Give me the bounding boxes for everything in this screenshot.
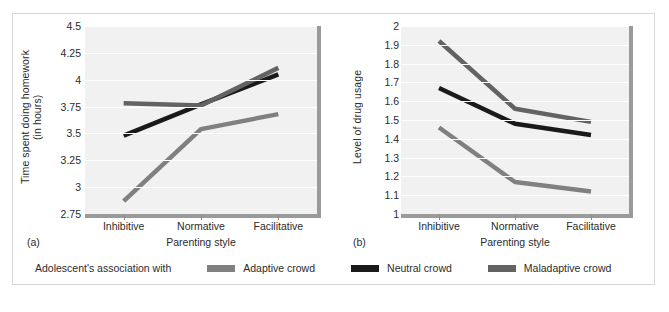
y-tick-label: 3.5 — [66, 127, 81, 139]
y-tick-label: 2.75 — [61, 208, 81, 220]
y-axis-ticks-b: 11.11.21.31.41.51.61.71.81.92 — [365, 14, 399, 214]
legend-item[interactable]: Adaptive crowd — [207, 262, 315, 274]
figure-frame: Time spent doing homework(in hours) 2.75… — [12, 13, 655, 285]
chart-panel-a: Time spent doing homework(in hours) 2.75… — [13, 14, 343, 232]
y-axis-label-b: Level of drug usage — [351, 42, 365, 192]
gridline — [401, 120, 629, 121]
y-tick-label: 1.3 — [384, 152, 399, 164]
x-axis-label-a: Parenting style — [85, 236, 317, 248]
y-tick-label: 1.4 — [384, 133, 399, 145]
gridline — [401, 101, 629, 102]
plot-area-a — [85, 26, 321, 218]
legend-label: Maladaptive crowd — [524, 262, 612, 274]
gridline — [401, 82, 629, 83]
x-axis-ticks-b: InhibitiveNormativeFacilitative — [401, 220, 629, 236]
y-tick-label: 3.75 — [61, 101, 81, 113]
legend-swatch — [488, 265, 516, 272]
gridline — [85, 187, 317, 188]
series-line — [124, 68, 279, 106]
y-tick-label: 1.6 — [384, 95, 399, 107]
legend-title: Adolescent's association with — [35, 262, 171, 274]
legend-label: Adaptive crowd — [243, 262, 315, 274]
gridline — [401, 139, 629, 140]
gridline — [85, 133, 317, 134]
series-lines-a — [85, 26, 317, 214]
gridline — [401, 45, 629, 46]
x-tick-label: Facilitative — [566, 220, 616, 232]
gridline — [85, 26, 317, 27]
gridline — [401, 158, 629, 159]
y-axis-label-a: Time spent doing homework(in hours) — [19, 32, 45, 202]
series-line — [439, 128, 591, 192]
series-line — [439, 88, 591, 135]
x-axis-ticks-a: InhibitiveNormativeFacilitative — [85, 220, 317, 236]
legend-items: Adaptive crowdNeutral crowdMaladaptive c… — [171, 262, 611, 274]
y-axis-ticks-a: 2.7533.253.53.7544.254.5 — [47, 14, 81, 214]
x-tick-label: Inhibitive — [418, 220, 459, 232]
x-tick-label: Normative — [491, 220, 539, 232]
y-tick-label: 4.5 — [66, 20, 81, 32]
y-tick-label: 4 — [75, 74, 81, 86]
legend-swatch — [207, 265, 235, 272]
gridline — [85, 107, 317, 108]
gridline — [85, 80, 317, 81]
gridline — [85, 160, 317, 161]
y-tick-label: 1.9 — [384, 39, 399, 51]
y-tick-label: 3 — [75, 181, 81, 193]
y-tick-label: 1.7 — [384, 76, 399, 88]
gridline — [85, 53, 317, 54]
y-tick-label: 1.2 — [384, 170, 399, 182]
x-tick-label: Normative — [177, 220, 225, 232]
legend-item[interactable]: Neutral crowd — [351, 262, 452, 274]
y-tick-label: 1 — [393, 208, 399, 220]
y-tick-label: 1.8 — [384, 58, 399, 70]
gridline — [401, 195, 629, 196]
y-tick-label: 4.25 — [61, 47, 81, 59]
gridline — [401, 176, 629, 177]
y-tick-label: 1.1 — [384, 189, 399, 201]
x-tick-label: Inhibitive — [103, 220, 144, 232]
legend-swatch — [351, 265, 379, 272]
x-axis-label-b: Parenting style — [401, 236, 629, 248]
y-tick-label: 2 — [393, 20, 399, 32]
legend: Adolescent's association with Adaptive c… — [13, 257, 656, 279]
x-tick-label: Facilitative — [254, 220, 304, 232]
gridline — [401, 64, 629, 65]
chart-panel-b: Level of drug usage 11.11.21.31.41.51.61… — [343, 14, 656, 232]
gridline — [401, 26, 629, 27]
legend-label: Neutral crowd — [387, 262, 452, 274]
legend-item[interactable]: Maladaptive crowd — [488, 262, 612, 274]
plot-area-b — [401, 26, 633, 218]
panel-tag-b: (b) — [353, 236, 366, 248]
y-tick-label: 3.25 — [61, 154, 81, 166]
y-tick-label: 1.5 — [384, 114, 399, 126]
panel-tag-a: (a) — [27, 236, 40, 248]
